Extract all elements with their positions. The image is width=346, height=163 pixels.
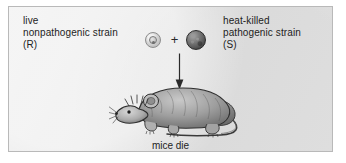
rough-strain-cell-icon bbox=[145, 32, 161, 48]
left-label-line2: nonpathogenic strain bbox=[23, 27, 118, 39]
mouse-illustration bbox=[109, 79, 259, 141]
right-label-line2: pathogenic strain bbox=[223, 27, 301, 39]
experiment-panel: live nonpathogenic strain (R) heat-kille… bbox=[8, 6, 333, 152]
right-strain-label: heat-killed pathogenic strain (S) bbox=[223, 15, 301, 51]
figure-caption: mice die bbox=[9, 140, 332, 152]
left-strain-label: live nonpathogenic strain (R) bbox=[23, 15, 118, 51]
right-label-line3: (S) bbox=[223, 39, 301, 51]
figure-container: live nonpathogenic strain (R) heat-kille… bbox=[0, 0, 346, 163]
left-label-line1: live bbox=[23, 15, 118, 27]
smooth-strain-cell-icon bbox=[186, 30, 206, 50]
smooth-strain-cell-texture bbox=[187, 31, 205, 49]
left-label-line3: (R) bbox=[23, 39, 118, 51]
right-label-line1: heat-killed bbox=[223, 15, 301, 27]
rough-strain-cell-speck bbox=[152, 41, 155, 44]
plus-icon: + bbox=[168, 33, 181, 46]
